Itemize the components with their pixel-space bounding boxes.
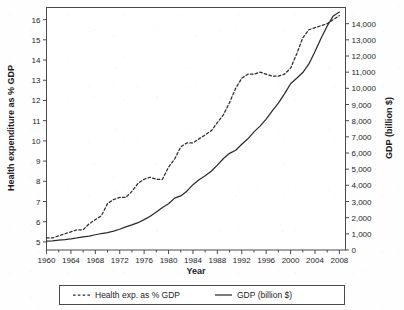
x-tick-label: 1988 <box>208 256 226 265</box>
y-tick-label-right: 12,000 <box>352 52 377 61</box>
legend-label-gdp: GDP (billion $) <box>237 290 292 300</box>
chart-figure: 5678910111213141516 01,0002,0003,0004,00… <box>0 0 404 310</box>
x-axis-title: Year <box>186 266 206 276</box>
y-axis-right-title: GDP (billion $) <box>384 97 394 159</box>
x-tick-label: 1960 <box>38 256 56 265</box>
x-tick-label: 2004 <box>306 256 324 265</box>
y-tick-label-left: 8 <box>36 177 41 186</box>
y-tick-label-left: 16 <box>32 16 41 25</box>
y-tick-label-left: 5 <box>36 238 41 247</box>
y-tick-label-right: 4,000 <box>352 181 373 190</box>
y-tick-label-right: 2,000 <box>352 214 373 223</box>
y-tick-label-left: 9 <box>36 157 41 166</box>
legend-label-health-expenditure: Health exp. as % GDP <box>95 290 180 300</box>
dual-axis-line-chart: 5678910111213141516 01,0002,0003,0004,00… <box>0 0 404 310</box>
y-tick-label-right: 10,000 <box>352 84 377 93</box>
y-tick-label-left: 11 <box>32 117 41 126</box>
y-tick-label-left: 12 <box>32 96 41 105</box>
y-tick-label-right: 1,000 <box>352 230 373 239</box>
y-tick-label-right: 13,000 <box>352 36 377 45</box>
x-tick-label: 1976 <box>135 256 153 265</box>
y-tick-label-left: 7 <box>36 198 41 207</box>
y-tick-label-left: 13 <box>32 76 41 85</box>
x-tick-label: 1972 <box>111 256 129 265</box>
y-tick-label-right: 0 <box>352 246 357 255</box>
x-tick-label: 2000 <box>282 256 300 265</box>
y-tick-label-left: 6 <box>36 218 41 227</box>
y-tick-label-left: 15 <box>32 36 41 45</box>
x-tick-label: 1992 <box>233 256 251 265</box>
y-tick-label-left: 14 <box>32 56 41 65</box>
y-tick-label-right: 5,000 <box>352 165 373 174</box>
y-tick-label-right: 8,000 <box>352 117 373 126</box>
y-tick-label-left: 10 <box>32 137 41 146</box>
y-tick-label-right: 14,000 <box>352 20 377 29</box>
x-tick-label: 1964 <box>62 256 80 265</box>
y-tick-label-right: 9,000 <box>352 101 373 110</box>
x-tick-label: 2008 <box>330 256 348 265</box>
x-tick-label: 1996 <box>257 256 275 265</box>
x-tick-label: 1980 <box>160 256 178 265</box>
y-axis-left-title: Health expenditure as % GDP <box>6 65 16 191</box>
y-tick-label-right: 7,000 <box>352 133 373 142</box>
x-tick-label: 1984 <box>184 256 202 265</box>
y-tick-label-right: 11,000 <box>352 68 376 77</box>
x-tick-label: 1968 <box>86 256 104 265</box>
chart-legend: Health exp. as % GDP GDP (billion $) <box>60 286 345 305</box>
y-tick-label-right: 6,000 <box>352 149 373 158</box>
y-tick-label-right: 3,000 <box>352 198 373 207</box>
